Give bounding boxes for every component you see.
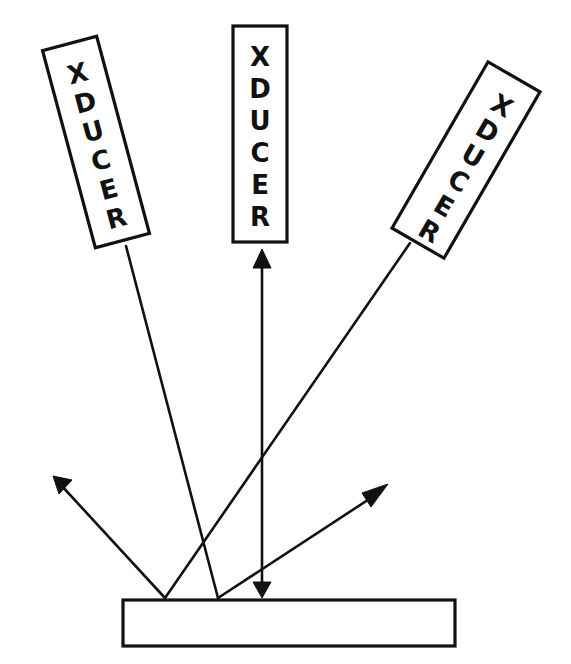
left-transducer-incident-ray <box>126 246 218 598</box>
right-transducer: X D U C E R <box>392 62 540 258</box>
reflected-ray-right-arrowhead-icon <box>362 484 388 507</box>
reflector-plate <box>123 600 455 646</box>
center-transducer: X D U C E R <box>233 26 287 242</box>
reflected-ray-left <box>60 484 165 598</box>
right-transducer-incident-ray <box>165 243 410 598</box>
reflected-ray-right <box>218 492 380 598</box>
left-transducer: X D U C E R <box>43 36 150 248</box>
center-transducer-letter: R <box>250 202 270 232</box>
reflected-ray-left-arrowhead-icon <box>53 476 72 494</box>
center-transducer-letter: X <box>250 42 270 72</box>
ultrasound-reflection-diagram: X D U C E R X D U C E R X D U C E R <box>0 0 571 664</box>
center-transducer-letter: D <box>249 74 271 104</box>
center-ray-down-arrowhead-icon <box>253 582 271 598</box>
center-transducer-letter: U <box>249 106 270 136</box>
center-ray-up-arrowhead-icon <box>253 249 271 268</box>
center-transducer-letter: E <box>251 170 269 200</box>
center-transducer-letter: C <box>250 138 269 168</box>
